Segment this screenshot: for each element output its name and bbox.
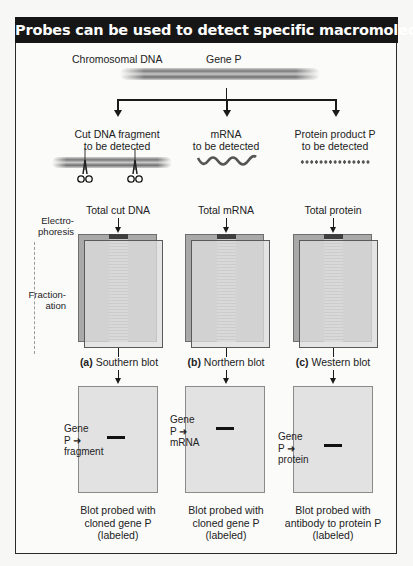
- gel-b-membrane: [191, 240, 270, 348]
- arrow-right-icon: ➜: [177, 426, 188, 437]
- arrow-right-icon: ➜: [71, 435, 82, 446]
- arrow-down-icon: [223, 110, 231, 117]
- gel-a-membrane: [84, 240, 163, 348]
- caption-a: Blot probed withcloned gene P(labeled): [58, 504, 178, 542]
- band-a: [107, 436, 125, 439]
- blot-title-c: (c) Western blot: [274, 356, 392, 368]
- band-c: [324, 444, 342, 447]
- band-label-b: Gene P ➜ mRNA: [170, 414, 199, 449]
- band-label-c: Gene P ➜ protein: [278, 431, 309, 466]
- branch-right: [335, 99, 337, 110]
- figure-title: Probes can be used to detect specific ma…: [15, 17, 398, 43]
- band-b: [216, 427, 234, 430]
- arrow-down-icon: [115, 378, 121, 384]
- arrow-down-icon: [223, 378, 229, 384]
- arrow-down-icon: [332, 110, 340, 117]
- arrow-down-icon: [114, 110, 122, 117]
- gel-a-well: [109, 234, 128, 239]
- gene-p-label: Gene P: [206, 53, 242, 65]
- fractionation-label: Fraction-ation: [14, 289, 66, 311]
- electrophoresis-label: Electro-phoresis: [20, 216, 74, 237]
- chromosomal-dna-label: Chromosomal DNA: [72, 53, 162, 65]
- sample-label-a: Total cut DNA: [68, 204, 168, 216]
- arrow-down-icon: [115, 227, 121, 233]
- gel-b-well: [217, 234, 236, 239]
- band-label-a: Gene P ➜ fragment: [64, 423, 103, 458]
- arrow-down-icon: [330, 227, 336, 233]
- caption-b: Blot probed withcloned gene P(labeled): [166, 504, 286, 542]
- gel-c-membrane: [299, 240, 378, 348]
- arrow-right-icon: ➜: [285, 443, 296, 454]
- target-label-mrna: mRNAto be detected: [166, 128, 286, 152]
- protein-bead-chain-icon: [300, 160, 370, 164]
- branch-left: [117, 99, 119, 110]
- blot-title-b: (b) Northern blot: [167, 356, 285, 368]
- gel-c-well: [324, 234, 343, 239]
- fractionation-axis-dashed: [34, 242, 35, 354]
- chromosomal-dna-icon: [120, 68, 320, 80]
- sample-label-b: Total mRNA: [176, 204, 276, 216]
- arrow-down-icon: [330, 378, 336, 384]
- branch-mid: [226, 99, 228, 110]
- caption-c: Blot probed withantibody to protein P(la…: [273, 504, 393, 542]
- target-label-protein: Protein product Pto be detected: [275, 128, 395, 152]
- mrna-wave-icon: [196, 154, 258, 168]
- arrow-down-icon: [223, 227, 229, 233]
- sample-label-c: Total protein: [283, 204, 383, 216]
- blot-title-a: (a) Southern blot: [60, 356, 178, 368]
